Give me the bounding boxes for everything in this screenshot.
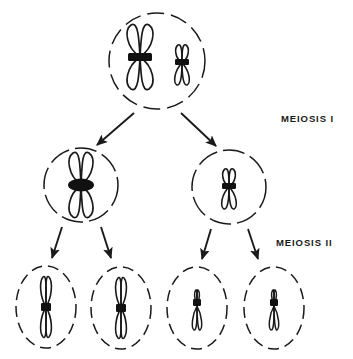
chromosome-small-bivalent — [175, 45, 190, 85]
cell-gamete-3 — [167, 267, 227, 349]
arrow-parent-to-daughter-left — [97, 113, 134, 145]
arrow-right-to-gamete-3 — [202, 229, 211, 259]
chromosome-large-dyad — [68, 152, 94, 217]
stage-label-meiosis-1: MEIOSIS I — [281, 113, 334, 124]
centromere-bar — [222, 183, 236, 189]
chromosome-small-dyad — [222, 169, 237, 209]
chromosome-small-monad — [269, 290, 278, 330]
cell-gamete-2 — [91, 267, 151, 349]
arrow-parent-to-daughter-right — [181, 113, 216, 146]
centromere-bar — [116, 304, 126, 312]
chromosome-large-monad — [116, 277, 127, 338]
arrow-left-to-gamete-1 — [52, 227, 62, 258]
cell-gamete-4 — [244, 267, 304, 349]
cell-daughter-left — [44, 148, 118, 222]
cell-gamete-1 — [16, 266, 76, 348]
chromosome-large-monad — [41, 276, 52, 337]
cell-daughter-right — [192, 150, 266, 224]
centromere-bar — [175, 59, 189, 65]
chromosome-small-monad — [192, 290, 201, 330]
centromere-bar — [128, 53, 152, 61]
meiosis-diagram: MEIOSIS I MEIOSIS II — [0, 0, 353, 359]
cell-membrane-dashed — [109, 13, 205, 109]
centromere-oval — [68, 179, 94, 192]
centromere-bar — [193, 299, 201, 306]
meiosis-canvas — [0, 0, 353, 359]
centromere-bar — [41, 303, 51, 311]
stage-label-meiosis-2: MEIOSIS II — [276, 237, 333, 248]
centromere-bar — [270, 299, 278, 306]
cell-parent — [109, 13, 205, 109]
chromosome-large-bivalent — [127, 24, 153, 89]
arrow-right-to-gamete-4 — [248, 229, 258, 259]
arrow-left-to-gamete-2 — [101, 227, 111, 258]
